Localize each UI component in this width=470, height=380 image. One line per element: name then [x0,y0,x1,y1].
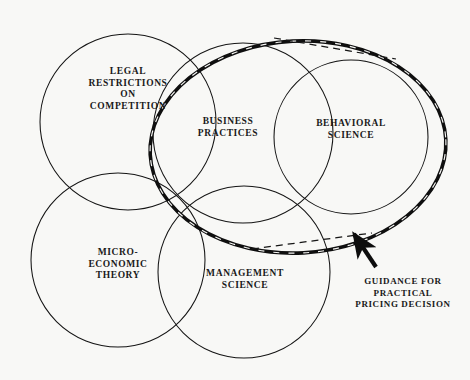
circle-micro-economic-theory [31,173,205,347]
circle-behavioral-science [274,60,428,214]
guidance-highlight-ellipse [145,33,452,260]
circle-management-science [158,186,330,358]
circle-business-practices [153,43,333,223]
diagram-canvas: LEGAL RESTRICTIONS ON COMPETITION BUSINE… [0,0,470,380]
venn-diagram-svg [0,0,470,380]
